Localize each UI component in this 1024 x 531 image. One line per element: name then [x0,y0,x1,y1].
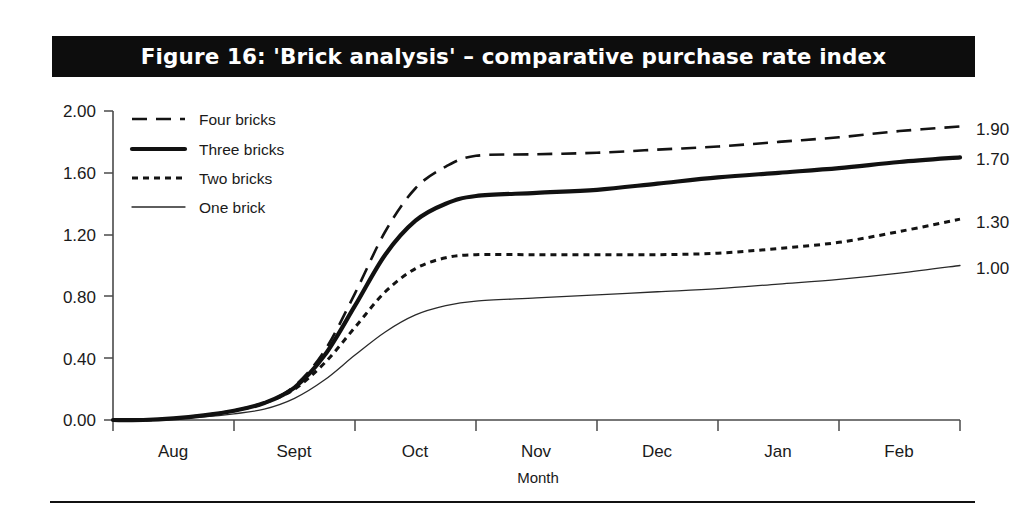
x-axis [113,420,960,431]
chart-plot-area: 2.00 1.60 1.20 0.80 0.40 0.00 Aug [0,85,1024,485]
end-label-two-bricks: 1.30 [976,213,1009,232]
y-tick-label: 0.00 [63,411,96,430]
chart-legend: Four bricks Three bricks Two bricks One … [132,111,285,216]
page-title: Figure 16: 'Brick analysis' – comparativ… [141,44,886,69]
legend-item-four-bricks[interactable]: Four bricks [132,111,276,128]
figure-bottom-rule [50,501,975,503]
x-tick-label: Dec [642,442,673,461]
brick-analysis-line-chart: 2.00 1.60 1.20 0.80 0.40 0.00 Aug [0,85,1024,485]
legend-item-three-bricks[interactable]: Three bricks [132,141,285,158]
y-tick-label: 1.20 [63,226,96,245]
x-tick-label: Oct [402,442,429,461]
end-label-four-bricks: 1.90 [976,120,1009,139]
legend-item-one-brick[interactable]: One brick [132,199,266,216]
legend-label-two-bricks: Two bricks [199,170,272,187]
y-tick-label: 2.00 [63,102,96,121]
y-axis [104,111,113,420]
x-axis-title: Month [517,469,559,485]
series-end-labels: 1.90 1.70 1.30 1.00 [976,120,1009,278]
x-axis-tick-labels: Aug Sept Oct Nov Dec Jan Feb [158,442,914,461]
legend-label-one-brick: One brick [199,199,266,216]
end-label-three-bricks: 1.70 [976,150,1009,169]
y-tick-label: 0.40 [63,350,96,369]
legend-label-three-bricks: Three bricks [199,141,285,158]
x-tick-label: Nov [521,442,552,461]
y-tick-label: 1.60 [63,164,96,183]
series-line-three-bricks [113,157,960,420]
x-tick-label: Feb [884,442,913,461]
legend-item-two-bricks[interactable]: Two bricks [132,170,272,187]
x-tick-label: Sept [277,442,312,461]
figure-title-banner: Figure 16: 'Brick analysis' – comparativ… [52,36,975,77]
x-tick-label: Aug [158,442,188,461]
series-line-two-bricks [113,219,960,420]
legend-label-four-bricks: Four bricks [199,111,276,128]
figure-container: Figure 16: 'Brick analysis' – comparativ… [0,0,1024,531]
end-label-one-brick: 1.00 [976,259,1009,278]
x-tick-label: Jan [764,442,791,461]
y-axis-tick-labels: 2.00 1.60 1.20 0.80 0.40 0.00 [63,102,96,430]
y-tick-label: 0.80 [63,288,96,307]
series-line-one-brick [113,266,960,421]
